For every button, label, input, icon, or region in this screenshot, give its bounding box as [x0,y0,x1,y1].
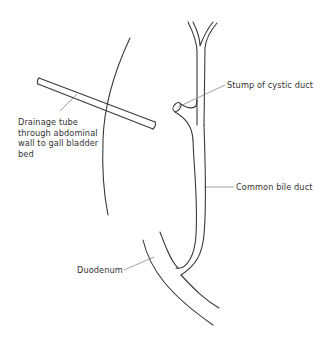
label-duodenum: Duodenum [77,265,123,276]
abdominal-wall-line [103,38,130,215]
cystic-duct-stump [171,100,197,140]
common-bile-duct [176,125,206,275]
leader-cystic-stump [178,85,225,107]
hepatic-ducts [188,22,217,125]
label-cystic-stump: Stump of cystic duct [227,80,313,91]
label-drainage-tube: Drainage tubethrough abdominalwall to ga… [18,117,98,159]
biliary-diagram [0,0,329,342]
leader-duodenum [124,257,154,270]
label-common-bile-duct: Common bile duct [236,182,313,193]
duodenum [143,232,219,325]
leader-drainage-tube [60,94,77,111]
